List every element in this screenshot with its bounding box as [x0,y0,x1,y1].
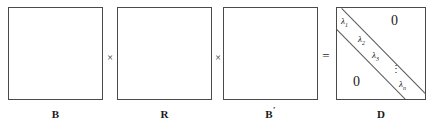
matrix-d-contents: λ1 λ2 λ3 ⋮ λn 0 0 [337,8,425,99]
matrix-r-label-text: R [160,108,168,120]
equals-operator: = [319,49,333,62]
matrix-d-label-text: D [377,108,385,120]
multiply-operator-1: × [104,53,116,63]
matrix-r-label: R [117,104,212,120]
matrix-r-box [117,7,212,100]
matrix-b-prime-label: B′ [223,104,318,120]
matrix-b-label: B [8,104,103,120]
matrix-d-label: D [336,104,426,120]
matrix-b-prime-prime-mark: ′ [273,105,276,115]
lambda-3-subscript: 3 [376,56,379,62]
diagonal-entry-lambda-2: λ2 [358,35,365,46]
diagonal-ellipsis: ⋮ [391,64,401,74]
matrix-b-prime-label-text: B [265,108,273,120]
diagonal-band-line-lower [337,27,423,99]
lambda-1-subscript: 1 [345,22,348,28]
matrix-b-label-text: B [52,108,60,120]
matrix-d-box: λ1 λ2 λ3 ⋮ λn 0 0 [336,7,426,100]
matrix-equation-figure: B × R × B′ = λ1 λ2 λ3 [0,0,432,123]
diagonal-entry-lambda-1: λ1 [341,17,348,28]
diagonal-entry-lambda-3: λ3 [372,51,379,62]
diagonal-entry-lambda-n: λn [399,80,406,91]
zero-upper-right: 0 [391,14,398,28]
zero-lower-left: 0 [353,75,360,89]
matrix-b-prime-box [223,7,318,100]
lambda-n-subscript: n [403,85,406,91]
lambda-2-subscript: 2 [362,40,365,46]
matrix-b-box [8,7,103,100]
